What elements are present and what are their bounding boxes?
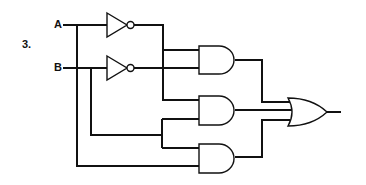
or-gate [288,98,327,126]
input-label-a: A [54,18,62,30]
and-gate-3 [199,144,234,173]
and-gate-2 [199,96,234,125]
wires-input-a [63,25,199,166]
not-gate-a [107,13,134,37]
wire-and3-or [235,120,290,157]
not-gate-b [107,56,134,80]
logic-circuit-diagram: 3. A B [0,0,366,185]
problem-number: 3. [22,38,31,50]
and-gate-1 [199,46,234,74]
wires-input-b [63,68,199,148]
wire-and1-or [235,60,290,102]
input-label-b: B [54,61,62,73]
wires-not-a [134,25,199,100]
